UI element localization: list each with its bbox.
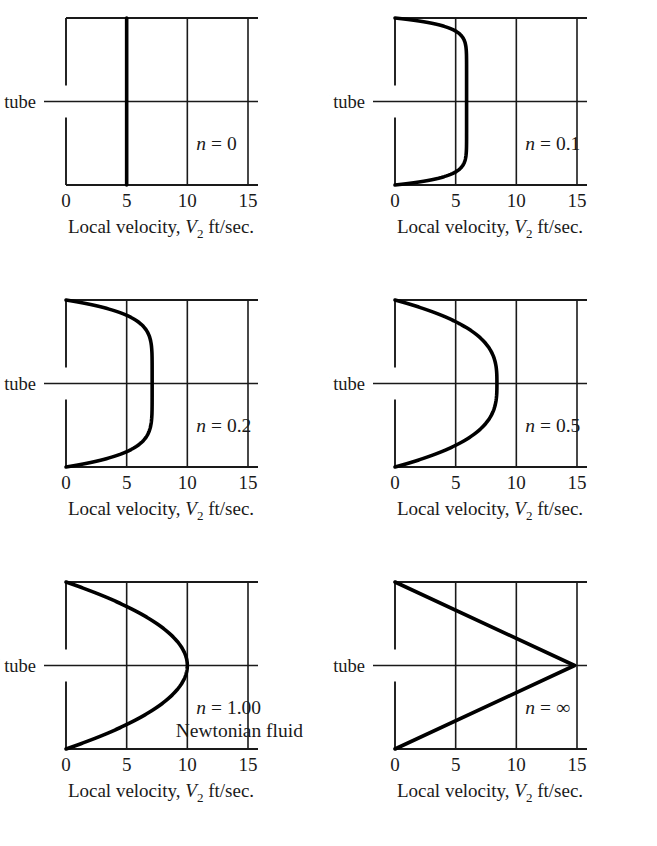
velocity-profile-figure: 051015Local velocity, V2 ft/sec.₵ of tub… (0, 0, 657, 846)
x-tick-label: 15 (239, 190, 258, 211)
n-value-label: n= ∞ (525, 697, 570, 718)
x-tick-label: 5 (122, 190, 132, 211)
x-tick-label: 15 (568, 754, 587, 775)
panel-n-1: 051015Local velocity, V2 ft/sec.₵ of tub… (0, 564, 328, 846)
n-value-label: n= 0.1 (525, 133, 580, 154)
x-tick-label: 5 (122, 754, 132, 775)
centerline-label: ₵ of tube (0, 653, 36, 677)
centerline-label: ₵ of tube (0, 371, 36, 395)
x-tick-label: 10 (507, 190, 526, 211)
x-axis-caption: Local velocity, V2 ft/sec. (397, 780, 583, 805)
panel-n-0p5: 051015Local velocity, V2 ft/sec.₵ of tub… (329, 282, 657, 564)
x-axis-caption: Local velocity, V2 ft/sec. (68, 780, 254, 805)
x-tick-label: 15 (568, 190, 587, 211)
x-tick-label: 0 (61, 190, 71, 211)
centerline-label: ₵ of tube (329, 653, 365, 677)
x-axis-caption: Local velocity, V2 ft/sec. (397, 498, 583, 523)
fluid-type-label: Newtonian fluid (176, 720, 304, 741)
x-tick-label: 5 (451, 190, 461, 211)
x-tick-label: 0 (390, 472, 400, 493)
x-tick-label: 15 (568, 472, 587, 493)
n-value-label: n= 0.5 (525, 415, 580, 436)
x-axis-caption: Local velocity, V2 ft/sec. (397, 216, 583, 241)
x-tick-label: 0 (61, 754, 71, 775)
x-tick-label: 10 (178, 754, 197, 775)
x-tick-label: 10 (507, 754, 526, 775)
panel-n-0: 051015Local velocity, V2 ft/sec.₵ of tub… (0, 0, 328, 282)
x-tick-label: 5 (122, 472, 132, 493)
x-tick-label: 0 (390, 190, 400, 211)
x-tick-label: 5 (451, 754, 461, 775)
x-axis-caption: Local velocity, V2 ft/sec. (68, 216, 254, 241)
x-axis-caption: Local velocity, V2 ft/sec. (68, 498, 254, 523)
centerline-label: ₵ of tube (0, 89, 36, 113)
n-value-label: n= 0.2 (196, 415, 251, 436)
centerline-label: ₵ of tube (329, 89, 365, 113)
x-tick-label: 0 (390, 754, 400, 775)
x-tick-label: 10 (507, 472, 526, 493)
x-tick-label: 10 (178, 472, 197, 493)
x-tick-label: 0 (61, 472, 71, 493)
x-tick-label: 15 (239, 472, 258, 493)
x-tick-label: 5 (451, 472, 461, 493)
panel-n-0p1: 051015Local velocity, V2 ft/sec.₵ of tub… (329, 0, 657, 282)
panel-n-0p2: 051015Local velocity, V2 ft/sec.₵ of tub… (0, 282, 328, 564)
x-tick-label: 15 (239, 754, 258, 775)
n-value-label: n= 0 (196, 133, 236, 154)
centerline-label: ₵ of tube (329, 371, 365, 395)
x-tick-label: 10 (178, 190, 197, 211)
n-value-label: n= 1.00 (196, 697, 261, 718)
panel-n-inf: 051015Local velocity, V2 ft/sec.₵ of tub… (329, 564, 657, 846)
